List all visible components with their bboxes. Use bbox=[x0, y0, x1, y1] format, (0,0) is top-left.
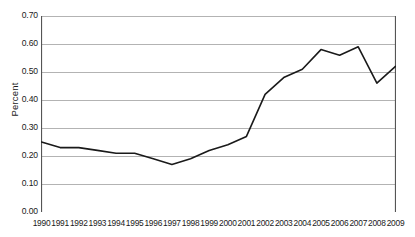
y-tick-label: 0.20 bbox=[2, 150, 38, 160]
y-tick-label: 0.60 bbox=[2, 38, 38, 48]
data-series-line bbox=[42, 47, 396, 165]
x-axis-tick-labels: 1990199119921993199419951996199719981999… bbox=[41, 218, 396, 234]
plot-frame bbox=[42, 16, 396, 212]
y-axis-tick-labels: 0.000.100.200.300.400.500.600.70 bbox=[0, 16, 38, 212]
plot-svg bbox=[41, 16, 396, 212]
gridlines bbox=[41, 17, 396, 213]
y-tick-label: 0.70 bbox=[2, 10, 38, 20]
plot-area bbox=[41, 16, 396, 212]
x-tick-label: 2009 bbox=[379, 218, 413, 228]
y-tick-label: 0.40 bbox=[2, 94, 38, 104]
y-tick-label: 0.00 bbox=[2, 206, 38, 216]
line-chart: Percent 0.000.100.200.300.400.500.600.70… bbox=[0, 0, 415, 237]
y-tick-label: 0.30 bbox=[2, 122, 38, 132]
y-tick-label: 0.50 bbox=[2, 66, 38, 76]
y-tick-label: 0.10 bbox=[2, 178, 38, 188]
